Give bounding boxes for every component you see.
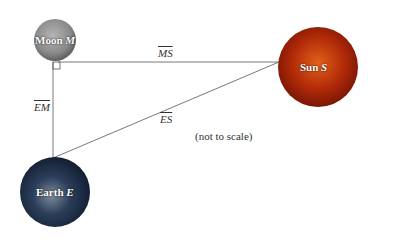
right-angle-marker: [53, 62, 60, 69]
segment-es: [53, 62, 279, 158]
label-ms: MS: [158, 47, 173, 59]
sun-label: Sun S: [300, 61, 327, 73]
not-to-scale-note: (not to scale): [195, 130, 252, 142]
label-es: ES: [160, 113, 172, 125]
earth-label: Earth E: [36, 186, 74, 198]
label-em: EM: [34, 101, 50, 113]
moon-label: Moon M: [35, 34, 75, 46]
